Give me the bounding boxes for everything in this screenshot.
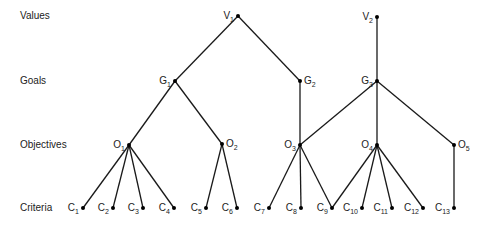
node-label: O5 [458, 139, 470, 152]
node-label: V1 [223, 10, 234, 23]
node-c1: C1 [68, 202, 85, 215]
level-label-values: Values [20, 10, 50, 21]
node-c2: C2 [98, 202, 115, 215]
edge-g1-o1 [129, 81, 175, 145]
node-dot [141, 206, 145, 210]
node-label: C6 [222, 202, 233, 215]
edge-o1-c1 [83, 145, 129, 208]
node-dot [390, 206, 394, 210]
edge-o3-c7 [269, 145, 300, 208]
node-dot [299, 206, 303, 210]
node-c7: C7 [254, 202, 271, 215]
node-dot [267, 206, 271, 210]
node-dot [421, 206, 425, 210]
node-dot [111, 206, 115, 210]
node-label: O3 [284, 139, 296, 152]
node-label: G1 [159, 75, 171, 88]
node-label: O2 [226, 138, 238, 151]
edges [83, 16, 454, 208]
node-c5: C5 [191, 202, 208, 215]
node-label: C5 [191, 202, 202, 215]
node-label: O4 [361, 139, 373, 152]
node-dot [220, 142, 224, 146]
level-label-criteria: Criteria [20, 202, 53, 213]
edge-o2-c5 [206, 144, 222, 208]
node-c9: C9 [317, 202, 334, 215]
node-dot [204, 206, 208, 210]
node-c13: C13 [435, 202, 456, 215]
node-dot [127, 143, 131, 147]
node-dot [173, 79, 177, 83]
node-label: C3 [128, 202, 139, 215]
edge-g3-o5 [377, 81, 454, 145]
level-label-objectives: Objectives [20, 139, 67, 150]
level-label-goals: Goals [20, 75, 46, 86]
node-v1: V1 [223, 10, 240, 23]
edge-o3-c9 [300, 145, 332, 208]
node-o5: O5 [452, 139, 470, 152]
node-label: G2 [304, 75, 316, 88]
edge-g1-o2 [175, 81, 222, 144]
node-dot [375, 79, 379, 83]
level-labels: Values Goals Objectives Criteria [20, 10, 67, 213]
node-g2: G2 [298, 75, 316, 88]
node-label: C2 [98, 202, 109, 215]
node-label: G3 [361, 75, 373, 88]
node-g1: G1 [159, 75, 177, 88]
node-label: C4 [159, 202, 170, 215]
node-label: O1 [113, 139, 125, 152]
edge-o3-c8 [300, 145, 301, 208]
node-dot [375, 15, 379, 19]
node-dot [172, 206, 176, 210]
node-dot [360, 206, 364, 210]
node-c12: C12 [404, 202, 425, 215]
node-dot [81, 206, 85, 210]
node-label: V2 [362, 11, 373, 24]
node-o3: O3 [284, 139, 302, 152]
node-dot [235, 206, 239, 210]
node-label: C13 [435, 202, 450, 215]
node-label: C8 [286, 202, 297, 215]
node-label: C1 [68, 202, 79, 215]
node-dot [236, 14, 240, 18]
node-dot [375, 143, 379, 147]
edge-o4-c9 [332, 145, 377, 208]
edge-v1-g2 [238, 16, 300, 81]
node-dot [330, 206, 334, 210]
node-label: C12 [404, 202, 419, 215]
node-dot [298, 79, 302, 83]
nodes: V1V2G1G2G3O1O2O3O4O5C1C2C3C4C5C6C7C8C9C1… [68, 10, 470, 215]
node-dot [452, 143, 456, 147]
edge-o2-c6 [222, 144, 237, 208]
node-g3: G3 [361, 75, 379, 88]
edge-v1-g1 [175, 16, 238, 81]
edge-o1-c2 [113, 145, 129, 208]
node-c4: C4 [159, 202, 176, 215]
edge-g3-o3 [300, 81, 377, 145]
node-dot [452, 206, 456, 210]
node-label: C9 [317, 202, 328, 215]
value-hierarchy-diagram: V1V2G1G2G3O1O2O3O4O5C1C2C3C4C5C6C7C8C9C1… [0, 0, 483, 225]
node-dot [298, 143, 302, 147]
node-label: C10 [343, 202, 358, 215]
node-c10: C10 [343, 202, 364, 215]
node-label: C11 [373, 202, 388, 215]
node-label: C7 [254, 202, 265, 215]
